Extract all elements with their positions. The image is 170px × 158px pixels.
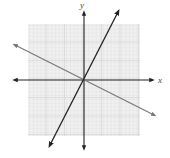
coordinate-plane: x y [0, 0, 170, 158]
y-axis-label: y [79, 0, 84, 10]
x-axis-label: x [157, 75, 162, 85]
